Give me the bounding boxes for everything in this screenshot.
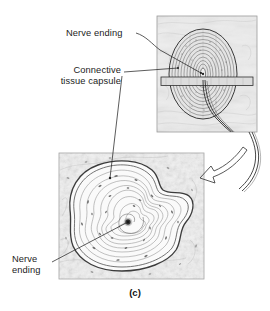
label-nerve-ending-bottom-line1: Nerve [12, 254, 56, 265]
leader-nerve-ending-top-hook [136, 33, 160, 50]
label-nerve-ending-top: Nerve ending [66, 28, 123, 39]
nerve-fiber-tail [239, 132, 259, 191]
label-nerve-ending-bottom-line2: ending [12, 265, 56, 276]
label-nerve-ending-bottom: Nerve ending [12, 254, 56, 276]
label-connective-tissue-capsule: Connective tissue capsule [33, 65, 121, 87]
label-connective-tissue-capsule-line1: Connective [33, 65, 121, 76]
schematic-illustration-panel [157, 16, 257, 148]
micrograph-nerve-ending [124, 218, 133, 227]
figure-container: Nerve ending Connective tissue capsule N… [0, 0, 270, 311]
light-micrograph-panel [59, 153, 204, 279]
schematic-corpuscle [169, 29, 237, 119]
magnification-arrow [200, 147, 247, 183]
label-connective-tissue-capsule-line2: tissue capsule [33, 76, 121, 87]
figure-caption: (c) [0, 287, 270, 298]
